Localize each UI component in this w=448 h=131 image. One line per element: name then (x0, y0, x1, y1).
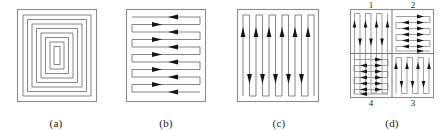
quadrant-decomposition-svg: 1 2 3 4 (336, 0, 448, 110)
panel-b-caption: (b) (110, 117, 222, 129)
vertical-boustrophedon-svg (223, 0, 335, 110)
quadrant-number-4: 4 (369, 98, 374, 108)
panel-b-frame (127, 10, 206, 102)
quadrant-3-paths (396, 58, 429, 94)
quadrant-number-2: 2 (411, 0, 416, 10)
figure-root: (a) (0, 0, 448, 131)
panel-a: (a) (0, 0, 112, 131)
panel-c-caption: (c) (223, 117, 335, 129)
horizontal-sweep-paths (132, 17, 200, 92)
panel-d-graphic: 1 2 3 4 (336, 0, 448, 110)
panel-d-caption: (d) (336, 117, 448, 129)
panel-c-graphic (223, 0, 335, 110)
quadrant-2-arrows (402, 15, 424, 53)
quadrant-number-3: 3 (411, 98, 416, 108)
panel-a-caption: (a) (0, 117, 112, 129)
spiral-rings (23, 15, 91, 96)
panel-b-graphic (110, 0, 222, 110)
spiral-pattern-svg (0, 0, 112, 110)
horizontal-boustrophedon-svg (110, 0, 222, 110)
panel-a-graphic (0, 0, 112, 110)
panel-c: (c) (223, 0, 335, 131)
vertical-sweep-paths (243, 15, 314, 96)
panel-a-frame (18, 10, 97, 102)
panel-b: (b) (110, 0, 222, 131)
quadrant-2-paths (396, 17, 430, 52)
panel-d: 1 2 3 4 (d) (336, 0, 448, 131)
quadrant-number-1: 1 (369, 0, 374, 10)
